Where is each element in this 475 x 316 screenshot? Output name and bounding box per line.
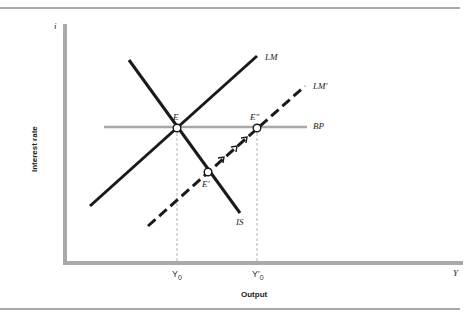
y-axis-symbol: i (54, 22, 57, 31)
tick-y0-prime: Y′0 (252, 270, 264, 281)
lm-label: LM (265, 53, 278, 62)
x-axis-title: Output (241, 291, 267, 299)
lm-prime-label: LM′ (313, 82, 327, 91)
point-e-prime-label: E′ (202, 180, 209, 189)
y-axis-title: Interest rate (31, 126, 39, 172)
point-e-prime (204, 168, 212, 176)
point-e-double-prime (253, 124, 261, 132)
point-e-label: E (173, 113, 179, 122)
point-e-double-prime-label: E″ (250, 113, 259, 122)
is-label: IS (236, 218, 244, 227)
point-e (173, 124, 181, 132)
lm-prime-curve (148, 86, 305, 226)
diagram-canvas (0, 0, 475, 316)
x-axis-symbol: Y (453, 269, 458, 278)
tick-y0: Y0 (172, 270, 182, 281)
lm-curve (90, 56, 257, 206)
is-curve (129, 60, 240, 213)
bp-label: BP (313, 122, 324, 131)
